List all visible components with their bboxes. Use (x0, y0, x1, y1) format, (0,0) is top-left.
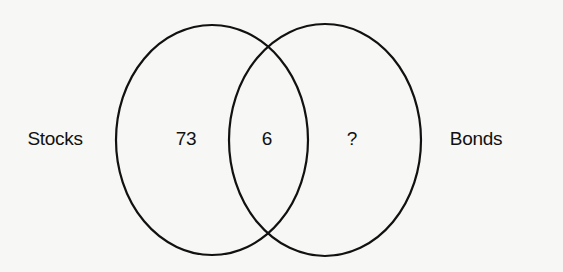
bonds-set-label: Bonds (450, 128, 502, 150)
bonds-circle (229, 24, 421, 256)
bonds-only-count: ? (347, 128, 357, 150)
stocks-circle (116, 25, 308, 255)
intersection-count: 6 (262, 128, 272, 150)
stocks-set-label: Stocks (27, 128, 82, 150)
stocks-only-count: 73 (176, 128, 197, 150)
